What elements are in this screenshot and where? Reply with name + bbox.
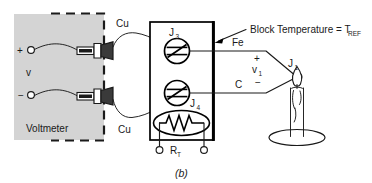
rt-terminal-left[interactable]: [156, 147, 163, 154]
junction-j3-label: J: [169, 27, 174, 38]
junction-j1-label: J: [288, 58, 293, 69]
screw-terminal-j4[interactable]: [165, 81, 190, 106]
voltmeter-symbol-label: v: [26, 67, 31, 78]
figure-canvas: Block Temperature = T REF Voltmeter v + …: [0, 0, 372, 183]
voltmeter-plus-sign: +: [17, 45, 23, 56]
rt-terminal-right[interactable]: [201, 147, 208, 154]
candle-wax-drip-left: [293, 91, 295, 109]
rt-sensor: [154, 111, 210, 136]
rt-label-subscript: T: [177, 151, 181, 158]
block-temperature-arrowhead: [215, 38, 224, 43]
candle-holder: [269, 130, 325, 146]
cu-label-lower: Cu: [118, 124, 131, 135]
candle: [269, 67, 325, 146]
wire-fe-label: Fe: [232, 37, 244, 48]
junction-j1-label-subscript: 1: [295, 64, 299, 71]
junction-j3-label-subscript: 3: [176, 33, 180, 40]
voltage-v1-label: v: [252, 64, 257, 75]
cu-label-upper: Cu: [116, 18, 129, 29]
screw-terminal-j3[interactable]: [165, 39, 190, 64]
voltmeter-label: Voltmeter: [26, 123, 69, 134]
voltmeter-minus-sign: −: [18, 90, 24, 101]
v1-polarity-plus: +: [254, 53, 260, 64]
junction-j4-label: J: [190, 98, 195, 109]
voltage-v1-label-subscript: 1: [259, 70, 263, 77]
figure-caption: (b): [175, 167, 188, 179]
block-temperature-label-subscript: REF: [348, 30, 361, 37]
thermocouple-reference-junction-figure: Block Temperature = T REF Voltmeter v + …: [0, 0, 372, 183]
v1-polarity-minus: −: [255, 77, 261, 88]
voltmeter-terminal-negative[interactable]: [28, 92, 35, 99]
junction-j4-label-subscript: 4: [197, 104, 201, 111]
wire-c-label: C: [235, 79, 242, 90]
voltmeter-terminal-positive[interactable]: [28, 47, 35, 54]
block-temperature-label: Block Temperature = T: [250, 24, 351, 35]
candle-wax-drip-right: [300, 91, 302, 105]
candle-wax-drip-lower: [294, 108, 296, 122]
